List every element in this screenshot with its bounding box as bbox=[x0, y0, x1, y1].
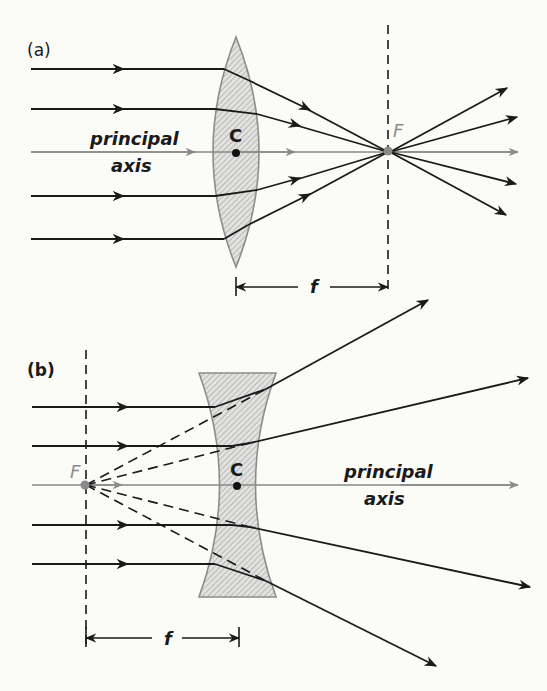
lens-center-point bbox=[233, 482, 241, 490]
axis-label-line1: principal bbox=[89, 128, 180, 149]
focal-length-dimension bbox=[86, 627, 239, 647]
center-label: C bbox=[230, 459, 243, 480]
axis-label-line2: axis bbox=[364, 488, 405, 509]
focus-label: F bbox=[393, 120, 404, 141]
center-label: C bbox=[229, 125, 242, 146]
focus-point bbox=[81, 481, 90, 490]
panel-b: (b) bbox=[27, 300, 530, 666]
focal-length-label: f bbox=[310, 276, 320, 297]
panel-a-label: (a) bbox=[27, 40, 51, 60]
lens-center-point bbox=[232, 149, 240, 157]
panel-a: (a) bbox=[27, 25, 518, 297]
panel-b-label: (b) bbox=[27, 360, 55, 380]
axis-label-line1: principal bbox=[343, 461, 434, 482]
lens-diagram: (a) bbox=[0, 0, 547, 691]
focus-label: F bbox=[70, 461, 81, 482]
focal-length-label: f bbox=[164, 628, 174, 649]
focus-point bbox=[384, 147, 393, 156]
diverging-rays bbox=[250, 300, 530, 666]
axis-label-line2: axis bbox=[111, 155, 152, 176]
incoming-rays bbox=[31, 69, 224, 239]
